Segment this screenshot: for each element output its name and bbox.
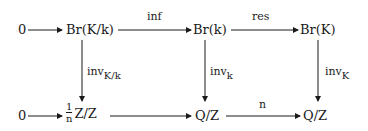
node-Q-mod-Z-middle: Q/Z	[195, 109, 219, 122]
top-zero: 0	[18, 23, 26, 36]
label-inv-k: invk	[210, 66, 233, 81]
fraction-one-over-n: 1n	[66, 102, 72, 124]
node-br-K: Br(K)	[300, 23, 336, 36]
node-br-K-over-k: Br(K/k)	[66, 23, 114, 36]
bottom-zero: 0	[18, 109, 26, 122]
label-res: res	[252, 11, 269, 22]
node-br-k: Br(k)	[193, 23, 227, 36]
label-inv-K-over-k: invK/k	[87, 66, 121, 81]
label-n: n	[259, 99, 266, 110]
node-one-over-n-Z-mod-Z: 1nZ/Z	[66, 102, 97, 124]
label-inv-K: invK	[325, 66, 349, 81]
node-Q-mod-Z-right: Q/Z	[303, 109, 327, 122]
label-inf: inf	[147, 11, 162, 22]
